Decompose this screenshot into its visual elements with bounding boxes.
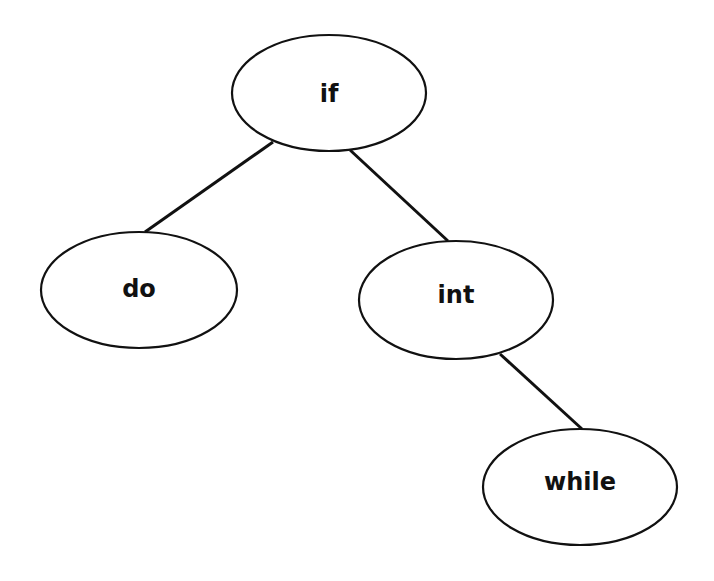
node-do-label: do [122, 275, 156, 303]
node-if-label: if [320, 80, 339, 108]
node-do: do [41, 232, 237, 348]
node-while-label: while [544, 468, 616, 496]
tree-diagram: if do int while [0, 0, 714, 581]
node-int: int [359, 241, 553, 359]
node-int-label: int [438, 281, 475, 309]
edge-if-int [350, 150, 448, 241]
edge-if-do [145, 142, 273, 232]
node-if: if [232, 35, 426, 151]
edge-int-while [500, 354, 582, 429]
node-while: while [483, 429, 677, 545]
